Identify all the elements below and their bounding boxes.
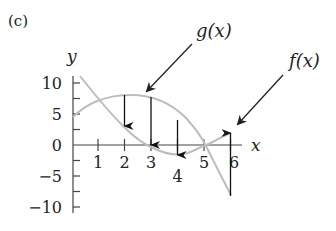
g-label: g(x) (196, 20, 232, 41)
svg-text:−10: −10 (28, 198, 62, 217)
y-tick-labels: 10 5 0 −5 −10 (28, 74, 62, 217)
f-label-pointer (238, 75, 283, 124)
svg-text:5: 5 (199, 153, 209, 172)
difference-chart: (c) 10 5 0 −5 −10 1 2 3 4 5 6 y (0, 0, 336, 231)
x-axis-label: x (251, 135, 261, 155)
g-label-pointer (147, 44, 192, 91)
svg-text:10: 10 (42, 74, 62, 93)
svg-text:−5: −5 (38, 167, 62, 186)
svg-text:0: 0 (52, 136, 62, 155)
svg-text:4: 4 (172, 167, 182, 186)
svg-text:3: 3 (146, 153, 156, 172)
svg-text:2: 2 (119, 153, 129, 172)
svg-text:5: 5 (52, 105, 62, 124)
f-curve (80, 76, 231, 154)
svg-text:1: 1 (93, 153, 103, 172)
y-axis-label: y (66, 46, 77, 66)
f-label: f(x) (287, 50, 320, 71)
panel-label: (c) (8, 12, 28, 30)
axes (73, 76, 242, 213)
